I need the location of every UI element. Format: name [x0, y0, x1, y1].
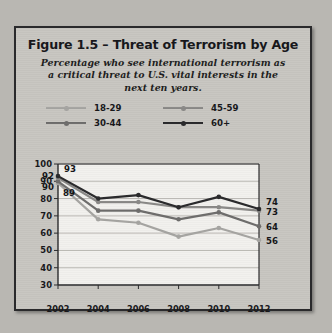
legend-item-45-59: 45-59	[163, 103, 280, 113]
legend-item-30-44: 30-44	[46, 118, 163, 128]
data-point	[257, 238, 262, 243]
data-label-right: 74	[266, 197, 278, 207]
y-axis-tick-label: 60	[40, 228, 52, 238]
data-point	[56, 174, 61, 179]
legend-item-18-29: 18-29	[46, 103, 163, 113]
legend-item-label: 45-59	[211, 103, 239, 113]
page-title: Figure 1.5 – Threat of Terrorism by Age	[16, 37, 310, 52]
x-axis-tick-label: 2006	[127, 304, 150, 314]
x-axis-tick-labels: 200220042006200820102012	[31, 304, 297, 318]
y-axis-tick-label: 50	[40, 245, 52, 255]
chart-plot-area: 304050607080901009392908974736456	[31, 158, 297, 301]
legend-item-60plus: 60+	[163, 118, 280, 128]
plot-background	[58, 164, 259, 285]
data-point	[217, 205, 222, 210]
data-point	[257, 207, 262, 212]
y-axis-tick-label: 40	[40, 263, 52, 273]
x-axis-tick-label: 2012	[248, 304, 271, 314]
y-axis-tick-label: 30	[40, 280, 52, 290]
legend-swatch-icon	[46, 104, 86, 113]
y-axis-tick-label: 70	[40, 211, 52, 221]
data-point	[217, 226, 222, 231]
data-point	[96, 196, 101, 201]
figure-card: Figure 1.5 – Threat of Terrorism by Age …	[14, 26, 312, 311]
data-point	[176, 217, 181, 222]
data-point	[96, 217, 101, 222]
y-axis-tick-label: 80	[40, 194, 52, 204]
data-point	[217, 195, 222, 200]
data-point	[176, 234, 181, 239]
data-point	[176, 205, 181, 210]
line-chart-svg: 304050607080901009392908974736456	[31, 158, 297, 301]
legend-item-label: 30-44	[94, 118, 122, 128]
data-point	[136, 200, 141, 205]
x-axis-tick-label: 2008	[167, 304, 190, 314]
y-axis-tick-label: 100	[35, 159, 53, 169]
data-point	[136, 220, 141, 225]
data-label-left: 92	[42, 171, 54, 181]
data-label-left: 89	[63, 188, 75, 198]
data-label-left: 90	[42, 182, 54, 192]
data-label-right: 56	[266, 236, 278, 246]
x-axis-tick-label: 2002	[47, 304, 70, 314]
data-point	[217, 210, 222, 215]
legend-swatch-icon	[46, 119, 86, 128]
data-point	[96, 208, 101, 213]
data-label-right: 73	[266, 207, 278, 217]
legend-item-label: 60+	[211, 118, 230, 128]
x-axis-tick-label: 2010	[207, 304, 230, 314]
data-label-left: 93	[64, 164, 76, 174]
legend-item-label: 18-29	[94, 103, 122, 113]
figure-subtitle: Percentage who see international terrori…	[38, 57, 288, 94]
data-label-right: 64	[266, 222, 278, 232]
data-point	[257, 224, 262, 229]
x-axis-tick-label: 2004	[87, 304, 110, 314]
legend-swatch-icon	[163, 119, 203, 128]
data-point	[136, 193, 141, 198]
legend-swatch-icon	[163, 104, 203, 113]
data-point	[136, 208, 141, 213]
chart-legend: 18-2945-5930-4460+	[46, 103, 280, 128]
